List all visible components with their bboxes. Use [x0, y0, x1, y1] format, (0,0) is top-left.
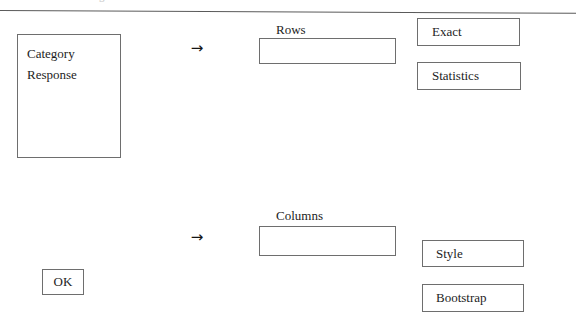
clipped-header-text: mmm mmmm mmm g — [0, 0, 360, 7]
statistics-button[interactable]: Statistics — [417, 62, 521, 90]
style-button[interactable]: Style — [422, 240, 524, 267]
horizontal-rule — [0, 10, 576, 14]
list-item[interactable]: Response — [27, 64, 120, 85]
arrow-right-icon[interactable]: → — [188, 228, 206, 246]
rows-target-box[interactable] — [259, 38, 396, 64]
exact-button[interactable]: Exact — [417, 18, 520, 46]
arrow-right-icon[interactable]: → — [188, 39, 206, 57]
bootstrap-button[interactable]: Bootstrap — [422, 284, 524, 312]
columns-label: Columns — [276, 208, 323, 224]
variable-list-box[interactable]: Category Response — [17, 34, 121, 158]
dialog-scan-page: mmm mmmm mmm g Category Response → → Row… — [0, 0, 576, 334]
list-item[interactable]: Category — [27, 43, 120, 64]
rows-label: Rows — [276, 22, 306, 38]
ok-button[interactable]: OK — [42, 269, 84, 295]
columns-target-box[interactable] — [259, 226, 396, 256]
